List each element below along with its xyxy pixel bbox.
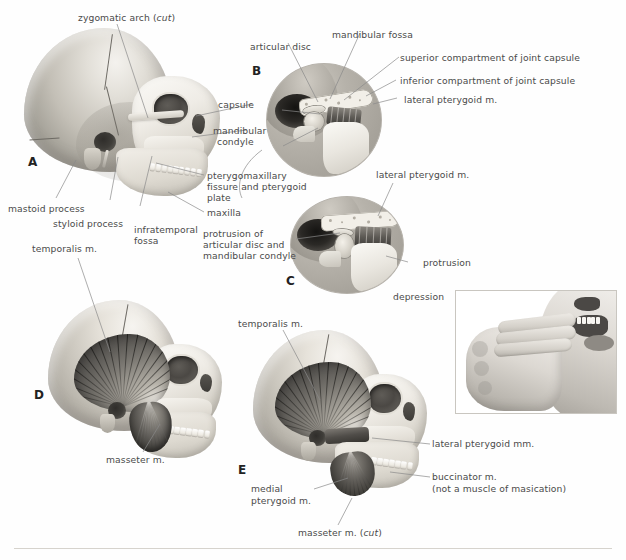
orbit-e xyxy=(369,384,401,413)
photo-inset-jaw-opening xyxy=(455,290,617,414)
coronoid-area-c xyxy=(319,251,341,267)
label-buccinator-line2: (not a muscle of masication) xyxy=(432,483,566,495)
mandibular-ramus xyxy=(323,122,369,174)
photo-upper-teeth xyxy=(577,317,600,324)
coronoid-area xyxy=(293,126,315,142)
label-pterygomaxillary-line2: fissure and pterygoid xyxy=(207,181,307,193)
mastoid-process-d xyxy=(100,414,115,433)
label-mandibular-fossa: mandibular fossa xyxy=(332,29,413,41)
label-masseter-cut-e: masseter m. (cut) xyxy=(298,527,382,539)
label-mandibular-condyle-line2: condyle xyxy=(217,136,254,148)
label-maxilla: maxilla xyxy=(207,207,241,219)
panel-letter-b: B xyxy=(252,64,261,78)
label-styloid-process: styloid process xyxy=(53,218,123,230)
label-mastoid-process: mastoid process xyxy=(8,203,85,215)
panel-letter-d: D xyxy=(34,388,44,402)
nasal-aperture-d xyxy=(200,374,212,392)
label-depression: depression xyxy=(393,291,444,303)
label-protrusion-of-line1: protrusion of xyxy=(203,228,263,240)
label-masseter-d: masseter m. xyxy=(106,454,165,466)
label-capsule: capsule xyxy=(218,99,254,111)
orbit xyxy=(154,94,188,124)
panel-b-inset-illustration xyxy=(266,63,382,177)
label-pterygomaxillary-line1: pterygomaxillary xyxy=(207,170,287,182)
label-buccinator-line1: buccinator m. xyxy=(432,471,497,483)
label-mandibular-condyle-line1: mandibular xyxy=(213,125,266,137)
photo-nostril-shadow xyxy=(574,297,600,311)
panel-letter-c: C xyxy=(286,274,295,288)
label-pterygomaxillary-line3: plate xyxy=(207,192,231,204)
panel-letter-e: E xyxy=(238,463,246,477)
photo-lower-lip xyxy=(584,335,614,351)
label-lateral-pterygoid-e: lateral pterygoid mm. xyxy=(432,438,534,450)
label-protrusion: protrusion xyxy=(423,257,471,269)
label-medial-pterygoid-line1: medial xyxy=(251,483,283,495)
panel-a-skull-illustration xyxy=(24,28,224,213)
nasal-aperture xyxy=(192,114,205,134)
anatomy-plate: A B xyxy=(0,0,626,560)
label-infratemporal-fossa-line1: infratemporal xyxy=(134,224,198,236)
panel-c-inset-illustration xyxy=(290,196,404,294)
mastoid-process xyxy=(84,148,101,170)
label-superior-compartment: superior compartment of joint capsule xyxy=(400,52,580,64)
medial-pterygoid-muscle-e xyxy=(328,449,378,499)
label-inferior-compartment: inferior compartment of joint capsule xyxy=(400,75,575,87)
label-temporalis-e: temporalis m. xyxy=(238,318,303,330)
label-articular-disc: articular disc xyxy=(250,41,311,53)
label-zygomatic-arch: zygomatic arch (cut) xyxy=(78,12,175,24)
mastoid-process-e xyxy=(301,442,316,461)
label-infratemporal-fossa-line2: fossa xyxy=(134,235,159,247)
panel-e-skull-illustration xyxy=(253,330,431,500)
mandibular-ramus-c xyxy=(351,243,397,291)
orbit-d xyxy=(166,356,198,384)
panel-letter-a: A xyxy=(28,155,37,169)
panel-d-skull-illustration xyxy=(48,300,226,468)
footer-rule xyxy=(14,548,612,549)
label-temporalis-d: temporalis m. xyxy=(32,243,97,255)
label-medial-pterygoid-line2: pterygoid m. xyxy=(251,495,311,507)
label-lateral-pterygoid-b: lateral pterygoid m. xyxy=(404,94,497,106)
nasal-aperture-e xyxy=(403,402,415,421)
label-protrusion-of-line3: mandibular condyle xyxy=(203,250,296,262)
label-lateral-pterygoid-c: lateral pterygoid m. xyxy=(376,169,469,181)
label-protrusion-of-line2: articular disc and xyxy=(203,239,285,251)
